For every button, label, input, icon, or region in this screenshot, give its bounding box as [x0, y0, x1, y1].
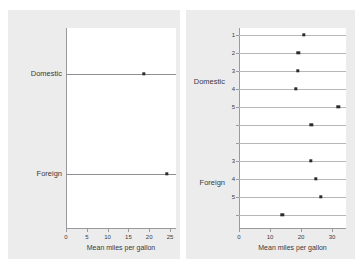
left-panel: 0510152025 DomesticForeign Mean miles pe…: [8, 10, 180, 259]
right-panel: 0102030 12345345 DomesticForeign Mean mi…: [186, 10, 355, 259]
x-tick-label: 25: [167, 234, 174, 240]
data-point-marker: [309, 159, 312, 162]
x-tick: [170, 229, 171, 232]
data-point-marker: [281, 213, 284, 216]
y-tick: [236, 215, 239, 216]
x-tick-label: 10: [267, 234, 274, 240]
y-category-label: Domestic: [31, 70, 62, 78]
right-x-axis: [239, 228, 346, 229]
right-plot-area: [239, 28, 346, 228]
data-point-marker: [296, 69, 299, 72]
left-y-axis: [66, 28, 67, 228]
y-tick-label: 4: [232, 86, 235, 92]
data-point-marker: [165, 172, 168, 175]
data-point-marker: [297, 51, 300, 54]
y-category-label: Foreign: [37, 170, 62, 178]
x-tick-label: 5: [85, 234, 88, 240]
data-point-marker: [319, 195, 322, 198]
y-tick-label: 3: [232, 68, 235, 74]
dot-plot-figure: 0510152025 DomesticForeign Mean miles pe…: [0, 0, 363, 268]
left-plot-area: [66, 28, 176, 228]
data-row-line: [66, 74, 176, 75]
left-x-axis-title: Mean miles per gallon: [87, 244, 155, 251]
left-x-axis: [66, 228, 176, 229]
x-tick-label: 10: [104, 234, 111, 240]
data-row-line: [239, 143, 346, 144]
y-tick: [236, 107, 239, 108]
y-tick: [236, 161, 239, 162]
right-x-axis-title: Mean miles per gallon: [258, 244, 326, 251]
data-row-line: [239, 215, 346, 216]
data-row-line: [66, 174, 176, 175]
x-tick-label: 0: [64, 234, 67, 240]
y-tick-label: 3: [232, 158, 235, 164]
x-tick-label: 0: [237, 234, 240, 240]
y-tick: [236, 179, 239, 180]
data-row-line: [239, 179, 346, 180]
x-tick: [270, 229, 271, 232]
data-row-line: [239, 197, 346, 198]
x-tick: [301, 229, 302, 232]
data-row-line: [239, 35, 346, 36]
y-tick: [236, 53, 239, 54]
data-point-marker: [302, 33, 305, 36]
group-label: Foreign: [200, 179, 225, 187]
data-point-marker: [142, 72, 145, 75]
data-point-marker: [314, 177, 317, 180]
y-tick-label: 5: [232, 194, 235, 200]
data-point-marker: [294, 87, 297, 90]
y-tick: [236, 125, 239, 126]
y-tick: [236, 143, 239, 144]
x-tick-label: 20: [146, 234, 153, 240]
x-tick: [128, 229, 129, 232]
x-tick: [108, 229, 109, 232]
data-point-marker: [336, 105, 339, 108]
x-tick: [332, 229, 333, 232]
data-row-line: [239, 107, 346, 108]
y-tick-label: 5: [232, 104, 235, 110]
y-tick-label: 1: [232, 32, 235, 38]
data-point-marker: [310, 123, 313, 126]
x-tick: [87, 229, 88, 232]
y-tick: [236, 35, 239, 36]
x-tick: [149, 229, 150, 232]
x-tick-label: 20: [298, 234, 305, 240]
x-tick-label: 15: [125, 234, 132, 240]
y-tick: [236, 89, 239, 90]
y-tick: [236, 71, 239, 72]
x-tick: [239, 229, 240, 232]
group-label: Domestic: [194, 78, 225, 86]
y-tick-label: 4: [232, 176, 235, 182]
data-row-line: [239, 89, 346, 90]
x-tick: [66, 229, 67, 232]
data-row-line: [239, 53, 346, 54]
y-tick: [236, 197, 239, 198]
y-tick-label: 2: [232, 50, 235, 56]
x-tick-label: 30: [329, 234, 336, 240]
data-row-line: [239, 161, 346, 162]
data-row-line: [239, 125, 346, 126]
right-y-axis: [239, 28, 240, 228]
data-row-line: [239, 71, 346, 72]
